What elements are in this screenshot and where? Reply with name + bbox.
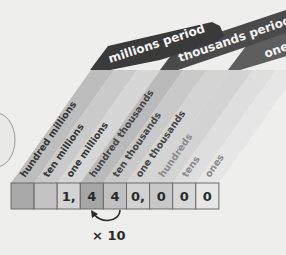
- digit-value: 0: [180, 189, 189, 204]
- digit-cells-row: 1,440,000: [11, 183, 219, 209]
- digit-value: 0,: [131, 189, 145, 204]
- digit-value: 0: [203, 189, 212, 204]
- times-ten-label: × 10: [92, 228, 126, 243]
- curved-arrow-icon: [94, 210, 120, 220]
- digit-value: 1,: [62, 189, 76, 204]
- digit-value: 4: [110, 189, 119, 204]
- place-value-chart: ones thousands period millions period hu…: [0, 0, 286, 255]
- partial-circle-shape: [0, 113, 15, 167]
- digit-value: 4: [87, 189, 96, 204]
- digit-value: 0: [157, 189, 166, 204]
- digit-cell: [11, 183, 34, 209]
- period-banner-millions: millions period: [90, 21, 224, 70]
- times-ten-annotation: × 10: [91, 210, 126, 243]
- digit-cell: [34, 183, 57, 209]
